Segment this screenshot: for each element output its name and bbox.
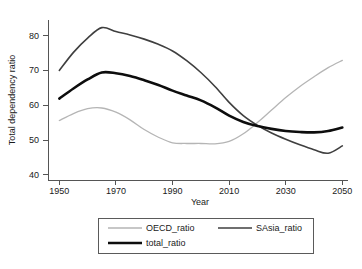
series-lines [59, 27, 342, 153]
y-axis-ticks: 4050607080 [29, 31, 48, 180]
series-line-total_ratio [59, 72, 342, 132]
y-tick-label: 50 [29, 135, 39, 145]
x-tick-label: 1990 [163, 186, 183, 196]
legend-label-OECD_ratio: OECD_ratio [146, 223, 195, 233]
x-tick-label: 2010 [219, 186, 239, 196]
y-tick-label: 70 [29, 65, 39, 75]
x-axis-title: Year [191, 197, 209, 207]
x-tick-label: 2030 [276, 186, 296, 196]
y-tick-label: 40 [29, 170, 39, 180]
series-line-SAsia_ratio [59, 27, 342, 153]
y-tick-label: 80 [29, 31, 39, 41]
y-tick-label: 60 [29, 100, 39, 110]
x-tick-label: 1950 [49, 186, 69, 196]
x-axis: 195019701990201020302050 Year [48, 180, 352, 207]
legend-label-SAsia_ratio: SAsia_ratio [256, 223, 302, 233]
legend-label-total_ratio: total_ratio [146, 238, 186, 248]
x-axis-ticks: 195019701990201020302050 [49, 180, 352, 196]
chart-legend: OECD_ratioSAsia_ratiototal_ratio [98, 218, 313, 253]
x-tick-label: 1970 [106, 186, 126, 196]
y-axis-title: Total dependency ratio [7, 55, 17, 146]
y-axis: 4050607080 Total dependency ratio [7, 20, 48, 180]
line-chart: 4050607080 Total dependency ratio 195019… [0, 0, 362, 269]
chart-figure: 4050607080 Total dependency ratio 195019… [0, 0, 362, 269]
x-tick-label: 2050 [332, 186, 352, 196]
